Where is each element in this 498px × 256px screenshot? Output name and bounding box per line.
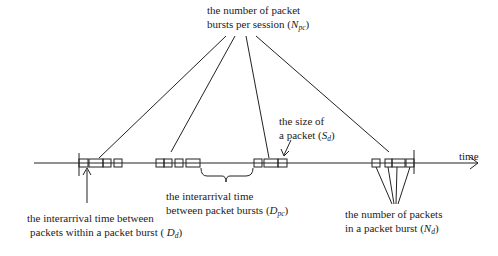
nd-label-line2: in a packet burst (Nd)	[345, 221, 442, 239]
nd-label: the number of packets in a packet burst …	[345, 207, 442, 239]
nd-pointer-lines	[376, 167, 410, 204]
sd-label-line2: a packet (Sd)	[279, 128, 335, 146]
npc-label: the number of packet bursts per session …	[207, 3, 309, 35]
dd-label-line1: the interarrival time between	[27, 211, 182, 225]
dd-label: the interarrival time between packets wi…	[27, 211, 182, 243]
sd-label: the size of a packet (Sd)	[279, 114, 335, 146]
nd-label-line1: the number of packets	[345, 207, 442, 221]
sd-label-line1: the size of	[279, 114, 335, 128]
time-axis-label: time	[459, 149, 479, 163]
npc-label-line1: the number of packet	[207, 3, 309, 17]
npc-label-line2: bursts per session (Npc)	[207, 17, 309, 35]
dpc-label-line2: between packet bursts (Dpc)	[166, 203, 288, 221]
packet-burst-diagram: the number of packet bursts per session …	[0, 0, 498, 256]
npc-pointer-lines	[99, 36, 389, 158]
dpc-brace	[201, 168, 253, 182]
dd-label-line2: packets within a packet burst ( Dd)	[27, 225, 182, 243]
dpc-label-line1: the interarrival time	[166, 189, 288, 203]
dpc-label: the interarrival time between packet bur…	[166, 189, 288, 221]
